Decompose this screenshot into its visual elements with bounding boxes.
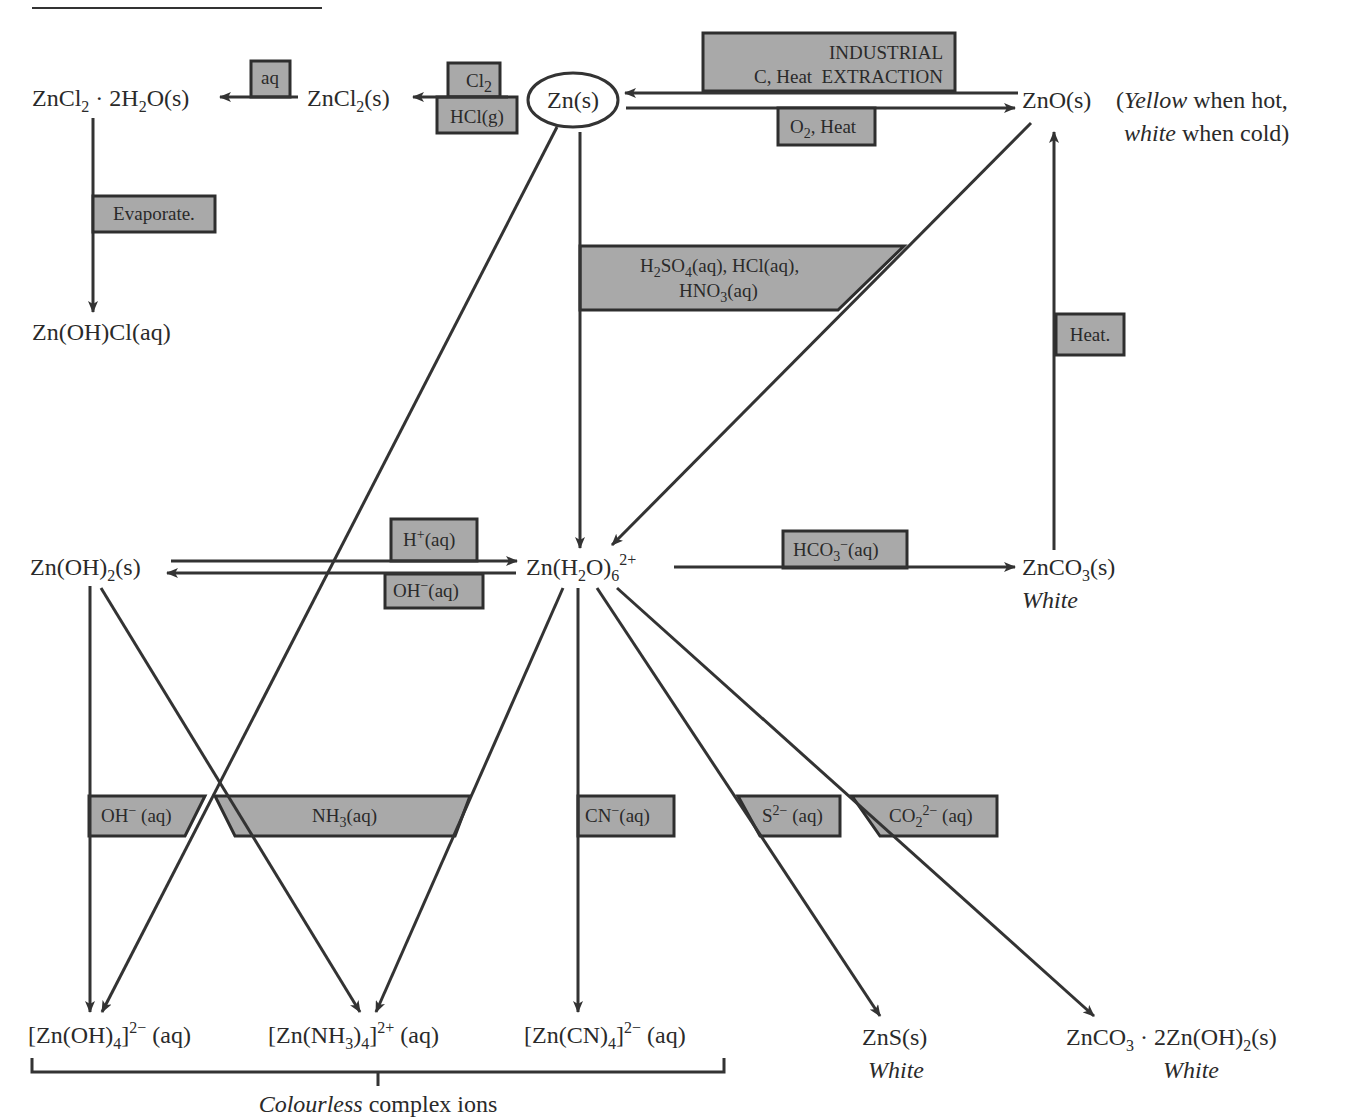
node-zncl2: ZnCl2(s) xyxy=(307,85,390,115)
node-zincate: [Zn(OH)4]2− (aq) xyxy=(28,1019,191,1052)
node-basic-zinc-carbonate: ZnCO3 · 2Zn(OH)2(s) xyxy=(1066,1024,1277,1054)
condition-industrial-line1: INDUSTRIAL xyxy=(829,42,943,63)
condition-oh-minus-2-label: OH− (aq) xyxy=(101,803,172,827)
condition-h-plus-label: H+(aq) xyxy=(403,527,455,551)
node-znohcl: Zn(OH)Cl(aq) xyxy=(32,319,171,345)
condition-evaporate-label: Evaporate. xyxy=(113,203,195,224)
condition-s2-minus-label: S2− (aq) xyxy=(762,803,823,827)
condition-industrial-line2: C, Heat EXTRACTION xyxy=(754,66,943,87)
node-hydrated-zinc-ion: Zn(H2O)62+ xyxy=(526,551,636,584)
node-znco3: ZnCO3(s) xyxy=(1022,554,1115,584)
condition-heat-label: Heat. xyxy=(1070,324,1111,345)
complex-ions-label: Colourless complex ions xyxy=(259,1091,498,1117)
arrow-zno-to-hydrated-ion xyxy=(612,123,1031,545)
znco3-color: White xyxy=(1022,587,1078,613)
node-zn: Zn(s) xyxy=(547,87,599,113)
node-zno: ZnO(s) xyxy=(1022,87,1091,113)
zno-color-note-line2: white when cold) xyxy=(1124,120,1289,146)
node-zns: ZnS(s) xyxy=(862,1024,927,1050)
node-tetracyanozincate: [Zn(CN)4]2− (aq) xyxy=(524,1019,686,1052)
zno-color-note-line1: (Yellow when hot, xyxy=(1116,87,1288,113)
basic-carbonate-color: White xyxy=(1163,1057,1219,1083)
zinc-chemistry-diagram: ZnCl2 · 2H2O(s) ZnCl2(s) Zn(s) ZnO(s) (Y… xyxy=(0,0,1354,1119)
arrow-zn-to-zincate xyxy=(102,127,557,1012)
condition-aq-label: aq xyxy=(261,67,279,88)
condition-hclg-label: HCl(g) xyxy=(450,106,504,128)
node-zncl2-hydrate: ZnCl2 · 2H2O(s) xyxy=(32,85,189,115)
node-zinc-hydroxide: Zn(OH)2(s) xyxy=(30,554,141,584)
node-tetraammine-zinc: [Zn(NH3)4]2+ (aq) xyxy=(268,1019,439,1052)
zns-color: White xyxy=(868,1057,924,1083)
arrow-hydrated-ion-to-basic-carbonate xyxy=(617,588,1094,1016)
complex-ions-bracket xyxy=(32,1058,724,1086)
